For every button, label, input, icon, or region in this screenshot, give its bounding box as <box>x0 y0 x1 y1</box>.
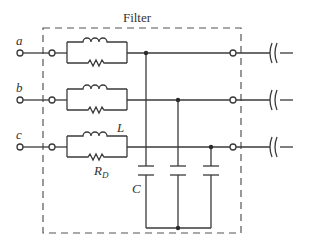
phase-b-branch <box>17 85 293 113</box>
filter-output-terminal-b <box>230 97 236 103</box>
input-terminal-a <box>17 50 23 56</box>
resistor-icon <box>67 107 127 113</box>
phase-a-branch <box>17 38 293 66</box>
filter-output-terminal-c <box>230 144 236 150</box>
inductor-icon <box>67 85 127 89</box>
phase-label-c: c <box>16 127 22 142</box>
filter-output-terminal-a <box>230 50 236 56</box>
capacitor-bank <box>138 53 219 228</box>
junction-dot <box>209 145 213 149</box>
resistor-icon <box>67 154 127 160</box>
filter-input-terminal-a <box>49 50 55 56</box>
line-break-icon <box>270 43 277 63</box>
neutral-junction-dot <box>176 226 180 230</box>
resistor-label: RD <box>93 163 109 180</box>
filter-circuit-diagram: Filter a b c <box>0 0 310 250</box>
filter-title: Filter <box>123 10 152 25</box>
resistor-icon <box>67 60 127 66</box>
phase-label-a: a <box>16 33 23 48</box>
line-break-icon <box>270 137 277 157</box>
junction-dot <box>144 51 148 55</box>
phase-c-branch <box>17 132 293 160</box>
filter-input-terminal-c <box>49 144 55 150</box>
input-terminal-c <box>17 144 23 150</box>
junction-dot <box>176 98 180 102</box>
filter-input-terminal-b <box>49 97 55 103</box>
input-terminal-b <box>17 97 23 103</box>
phase-label-b: b <box>16 80 23 95</box>
inductor-icon <box>67 38 127 42</box>
capacitor-label: C <box>132 181 141 196</box>
line-break-icon <box>270 90 277 110</box>
inductor-label: L <box>116 120 124 135</box>
